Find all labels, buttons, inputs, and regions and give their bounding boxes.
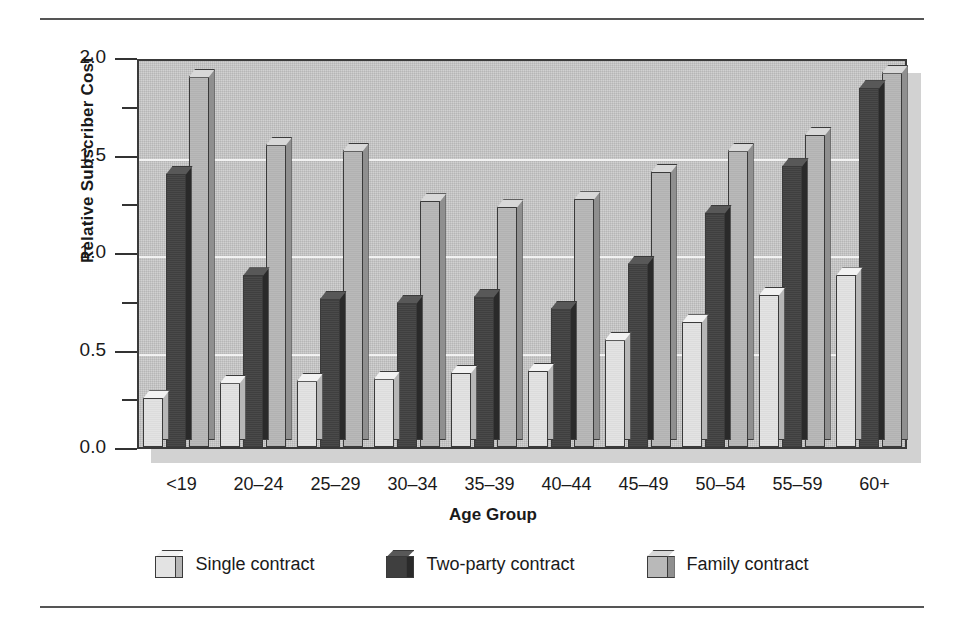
legend-swatch [647,550,676,578]
bar[interactable] [605,340,625,447]
bar-side-face [470,366,477,440]
y-tick-major [115,448,137,450]
bar-side-face [316,374,323,440]
bar-side-face [416,296,423,440]
legend-item[interactable]: Two-party contract [386,550,574,578]
bar-group [605,57,671,447]
legend-label: Family contract [687,554,809,575]
bar[interactable] [266,145,286,447]
bar[interactable] [189,77,209,448]
bar[interactable] [551,309,571,447]
y-tick-minor [122,302,137,304]
bar-side-face [570,302,577,440]
bar-group [297,57,363,447]
bar-front-face [166,174,186,447]
bar[interactable] [705,213,725,447]
bar-front-face [220,383,240,447]
bar-front-face [836,275,856,447]
legend-swatch-front [647,556,668,578]
bar-front-face [420,201,440,447]
bar[interactable] [651,172,671,447]
legend-item[interactable]: Family contract [647,550,809,578]
bar-front-face [297,381,317,447]
bar-group [143,57,209,447]
y-tick-label: 0.5 [60,339,106,361]
legend-label: Two-party contract [426,554,574,575]
legend-swatch-side [406,556,414,578]
bar-front-face [528,371,548,447]
plot-area [137,59,907,449]
y-tick-major [115,156,137,158]
chart-legend: Single contractTwo-party contractFamily … [0,550,964,578]
bar[interactable] [728,151,748,447]
bar-group [220,57,286,447]
bar-front-face [143,398,163,447]
y-tick-major [115,253,137,255]
bar[interactable] [220,383,240,447]
bar[interactable] [528,371,548,447]
legend-label: Single contract [195,554,314,575]
figure-container: Relative Subscriber Cost 0.00.51.01.52.0… [0,0,964,624]
bar-front-face [266,145,286,447]
bar[interactable] [420,201,440,447]
bar[interactable] [805,135,825,447]
legend-swatch-side [175,556,183,578]
bar[interactable] [451,373,471,447]
bar[interactable] [628,264,648,447]
y-tick-major [115,351,137,353]
legend-swatch-side [667,556,675,578]
legend-swatch [155,550,184,578]
y-tick-minor [122,399,137,401]
bar[interactable] [782,166,802,447]
bar[interactable] [166,174,186,447]
bar-front-face [189,77,209,448]
bar-front-face [805,135,825,447]
legend-item[interactable]: Single contract [155,550,314,578]
bar-side-face [624,333,631,440]
bar[interactable] [374,379,394,447]
bar-front-face [605,340,625,447]
bar-group [682,57,748,447]
bar[interactable] [836,275,856,447]
bar-side-face [239,376,246,440]
bar[interactable] [343,151,363,447]
bar-group [836,57,902,447]
bar-side-face [747,144,754,440]
bar-side-face [801,159,808,440]
y-tick-label: 1.0 [60,241,106,263]
bar[interactable] [882,73,902,447]
legend-swatch [386,550,415,578]
bar[interactable] [574,199,594,447]
bar-side-face [878,81,885,440]
bar[interactable] [397,303,417,447]
bar[interactable] [497,207,517,447]
bar-side-face [647,257,654,440]
bar[interactable] [243,275,263,447]
y-tick-label: 2.0 [60,46,106,68]
bar-side-face [701,315,708,440]
bar-side-face [493,290,500,440]
bar[interactable] [682,322,702,447]
bar-front-face [243,275,263,447]
bar-side-face [547,364,554,440]
bar-front-face [397,303,417,447]
bar[interactable] [474,297,494,447]
bar-side-face [516,200,523,440]
bar-front-face [374,379,394,447]
bar-front-face [651,172,671,447]
y-tick-label: 0.0 [60,436,106,458]
bar-group [528,57,594,447]
bar-side-face [185,167,192,440]
bar-side-face [208,70,215,441]
bar-front-face [574,199,594,447]
bar-side-face [824,128,831,440]
bar-group [759,57,825,447]
x-tick-label: 60+ [830,474,920,495]
bar[interactable] [143,398,163,447]
x-axis-title: Age Group [0,505,964,525]
bar-front-face [759,295,779,447]
bar[interactable] [297,381,317,447]
bar-side-face [670,165,677,440]
page-rule-top [40,18,924,20]
bar[interactable] [759,295,779,447]
